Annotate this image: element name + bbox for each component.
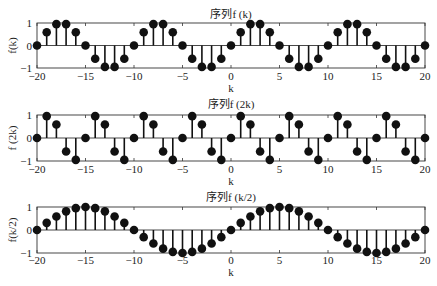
stem-marker (149, 120, 158, 129)
x-tick-label: −10 (125, 70, 143, 82)
stem-marker (256, 207, 265, 216)
stem-marker (285, 204, 294, 213)
stem-marker (207, 63, 216, 72)
stem-marker (198, 244, 207, 253)
y-tick-label: 1 (27, 109, 33, 121)
stem-marker (295, 207, 304, 216)
stem-marker (188, 112, 197, 121)
stem-marker (285, 54, 294, 63)
x-tick-label: 10 (323, 163, 335, 175)
stem-marker (120, 219, 129, 228)
x-tick-label: 0 (228, 254, 234, 266)
stem-marker (42, 28, 51, 37)
stem-marker (207, 147, 216, 156)
y-tick-label: 0 (27, 40, 33, 52)
stem-marker (72, 156, 81, 165)
y-tick-label: −1 (20, 62, 32, 74)
stem-marker (159, 244, 168, 253)
y-tick-label: 0 (27, 224, 33, 236)
stem-marker (256, 147, 265, 156)
stem-marker (139, 233, 148, 242)
x-tick-label: 15 (371, 70, 383, 82)
x-tick-label: 0 (228, 163, 234, 175)
x-tick-label: 15 (371, 163, 383, 175)
stem-marker (275, 134, 284, 143)
stem-marker (324, 134, 333, 143)
subplot-3: −20−15−10−505101520−101f(k/2)k序列f (k/2) (6, 190, 431, 278)
x-axis-label: k (228, 82, 234, 94)
x-tick-label: 10 (323, 70, 335, 82)
x-axis-label: k (228, 175, 234, 187)
stem-marker (207, 239, 216, 248)
stem-marker (421, 226, 430, 235)
stem-marker (130, 226, 139, 235)
y-axis-label: f(k) (6, 37, 19, 54)
stem-marker (304, 212, 313, 221)
x-tick-label: 5 (277, 163, 283, 175)
stem-marker (149, 239, 158, 248)
stem-marker (411, 233, 420, 242)
stem-marker (91, 204, 100, 213)
stem-marker (333, 28, 342, 37)
stem-marker (421, 134, 430, 143)
stem-marker (62, 147, 71, 156)
stem-marker (72, 28, 81, 37)
stem-marker (139, 28, 148, 37)
stem-marker (421, 41, 430, 50)
x-tick-label: −15 (77, 254, 95, 266)
stem-marker (139, 112, 148, 121)
stem-marker (227, 41, 236, 50)
x-tick-label: 20 (420, 70, 432, 82)
stem-marker (353, 147, 362, 156)
stem-marker (324, 226, 333, 235)
stem-marker (120, 156, 129, 165)
stem-marker (275, 41, 284, 50)
stem-marker (110, 147, 119, 156)
stem-marker (72, 204, 81, 213)
x-tick-label: 5 (277, 254, 283, 266)
x-tick-label: 0 (228, 70, 234, 82)
stem-marker (227, 226, 236, 235)
stem-marker (217, 156, 226, 165)
stem-marker (256, 20, 265, 29)
stem-marker (188, 248, 197, 257)
x-tick-label: −15 (77, 70, 95, 82)
stem-marker (401, 63, 410, 72)
stem-marker (246, 120, 255, 129)
stem-marker (169, 248, 178, 257)
stem-marker (401, 147, 410, 156)
stem-marker (169, 28, 178, 37)
stem-marker (178, 134, 187, 143)
stem-marker (314, 219, 323, 228)
stem-marker (353, 244, 362, 253)
y-axis-label: f(k/2) (6, 217, 19, 242)
subplot-2: −20−15−10−505101520−101f (2k)k序列f (2k) (6, 97, 431, 187)
stem-marker (266, 156, 275, 165)
subplot-title: 序列f (k/2) (206, 190, 256, 204)
stem-marker (62, 20, 71, 29)
x-tick-label: −10 (125, 254, 143, 266)
stem-marker (33, 134, 42, 143)
stem-marker (62, 207, 71, 216)
subplot-title: 序列f (k) (210, 7, 252, 21)
stem-marker (363, 156, 372, 165)
stem-marker (198, 120, 207, 129)
stem-marker (275, 203, 284, 212)
stem-marker (392, 120, 401, 129)
stem-marker (382, 112, 391, 121)
stem-marker (81, 41, 90, 50)
subplot-title: 序列f (2k) (208, 97, 255, 111)
stem-marker (304, 63, 313, 72)
stem-marker (159, 20, 168, 29)
stem-marker (120, 54, 129, 63)
stem-marker (343, 20, 352, 29)
stem-marker (372, 134, 381, 143)
stem-marker (333, 233, 342, 242)
x-axis-label: k (228, 266, 234, 278)
stem-marker (81, 134, 90, 143)
stem-marker (101, 63, 110, 72)
stem-marker (372, 249, 381, 258)
stem-marker (246, 212, 255, 221)
stem-marker (42, 112, 51, 121)
stem-marker (91, 112, 100, 121)
